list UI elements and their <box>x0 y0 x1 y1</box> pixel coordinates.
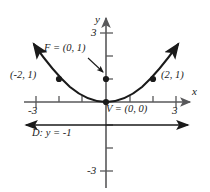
y-tick-label-minus3: -3 <box>87 165 96 176</box>
focus-label: F = (0, 1) <box>44 43 86 54</box>
x-tick-label-3: 3 <box>172 105 178 116</box>
focus-point <box>103 76 109 82</box>
right-point <box>150 76 156 82</box>
left-point <box>56 76 62 82</box>
y-axis-label: y <box>95 14 100 25</box>
graph-canvas <box>0 0 210 192</box>
right-point-label: (2, 1) <box>161 70 184 81</box>
x-tick-label-minus3: -3 <box>28 105 37 116</box>
focus-leader-arrow <box>88 58 103 72</box>
x-axis-label: x <box>192 86 197 97</box>
vertex-label: V = (0, 0) <box>106 104 147 115</box>
directrix-label: D: y = -1 <box>32 128 71 139</box>
parabola-figure: y x 3 -3 -3 3 F = (0, 1) (-2, 1) (2, 1) … <box>0 0 210 192</box>
left-point-label: (-2, 1) <box>10 70 36 81</box>
y-tick-label-3: 3 <box>91 27 97 38</box>
